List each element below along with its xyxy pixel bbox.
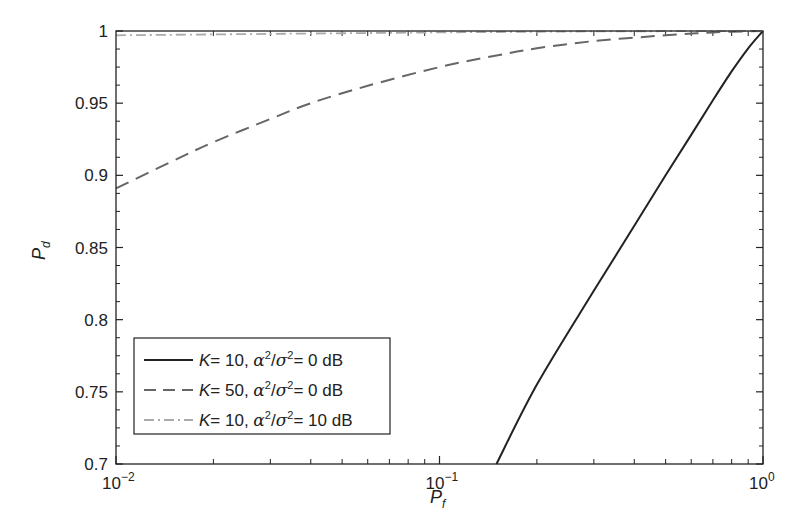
legend: K= 10, α2/σ2= 0 dBK= 50, α2/σ2= 0 dBK= 1… xyxy=(134,338,390,434)
x-axis-label: Pf xyxy=(430,487,447,511)
y-tick-label: 0.7 xyxy=(84,455,108,474)
y-tick-label: 0.9 xyxy=(84,166,108,185)
legend-entry-2: K= 50, α2/σ2= 0 dB xyxy=(199,379,343,400)
y-tick-label: 0.75 xyxy=(75,383,108,402)
legend-entry-3: K= 10, α2/σ2= 10 dB xyxy=(199,409,353,430)
x-tick-label: 10−2 xyxy=(102,470,135,493)
y-tick-label: 1 xyxy=(99,22,108,41)
y-tick-label: 0.95 xyxy=(75,94,108,113)
y-axis-label: Pd xyxy=(29,241,53,260)
y-tick-label: 0.85 xyxy=(75,239,108,258)
series-line-2 xyxy=(116,31,763,188)
legend-entry-1: K= 10, α2/σ2= 0 dB xyxy=(199,349,343,370)
y-tick-label: 0.8 xyxy=(84,311,108,330)
series-line-1 xyxy=(497,31,764,464)
x-tick-label: 100 xyxy=(749,470,775,493)
chart: 0.70.750.80.850.90.951 10−210−1100 Pf Pd… xyxy=(0,0,810,530)
